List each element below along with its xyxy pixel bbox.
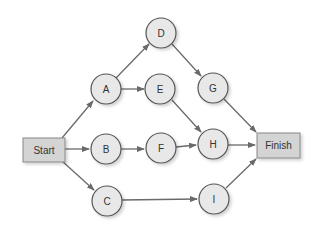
start-node: Start (23, 138, 65, 162)
node-a-label: A (103, 84, 110, 95)
node-d: D (146, 18, 176, 48)
finish-label: Finish (265, 140, 292, 151)
node-d-label: D (157, 28, 164, 39)
node-b-label: B (103, 144, 110, 155)
node-b: B (91, 134, 121, 164)
node-g: G (198, 73, 228, 103)
node-h-label: H (209, 139, 216, 150)
edge-d-g (172, 44, 201, 76)
edge-c-i (122, 199, 197, 200)
edge-e-h (172, 100, 201, 132)
edge-f-h (176, 145, 196, 147)
node-h: H (198, 129, 228, 159)
edge-start-c (62, 161, 94, 190)
node-c-label: C (103, 196, 110, 207)
node-i-label: I (213, 194, 216, 205)
node-i: I (199, 184, 229, 214)
node-e: E (145, 74, 175, 104)
edge-start-a (62, 101, 93, 138)
edge-g-finish (224, 99, 256, 132)
node-e-label: E (157, 84, 164, 95)
node-g-label: G (209, 83, 217, 94)
edges (62, 44, 256, 200)
node-c: C (92, 186, 122, 216)
start-label: Start (33, 145, 54, 156)
network-diagram: Start Finish D A E G B F H C I (0, 0, 320, 232)
node-a: A (91, 74, 121, 104)
node-f-label: F (158, 143, 164, 154)
finish-node: Finish (257, 133, 300, 158)
edge-a-d (116, 44, 149, 78)
node-f: F (146, 133, 176, 163)
edge-i-finish (226, 159, 256, 188)
